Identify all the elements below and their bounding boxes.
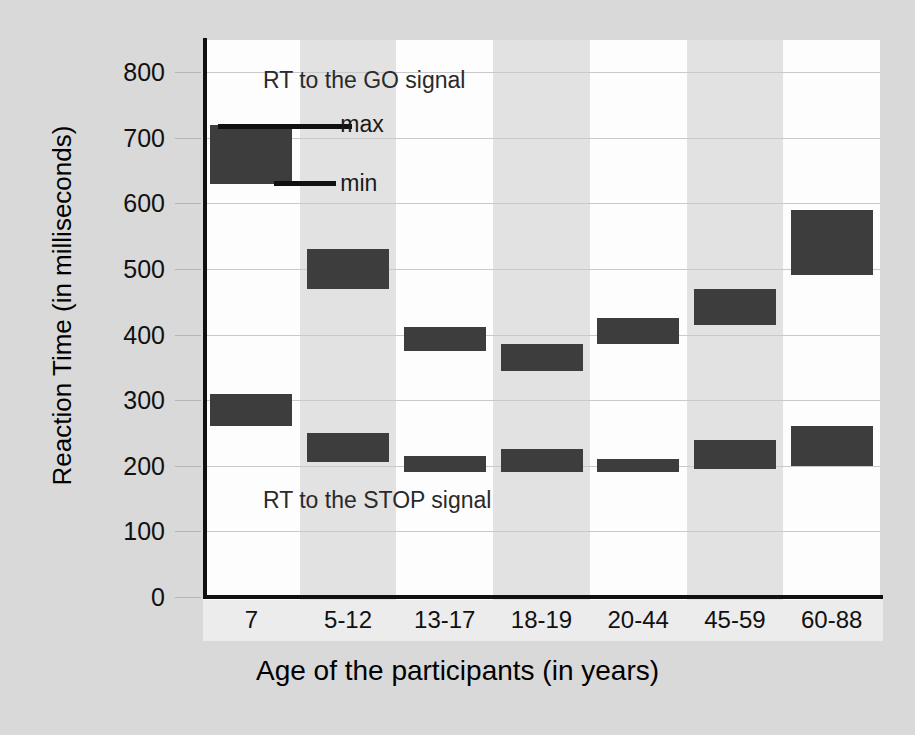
x-tick-label: 18-19: [493, 606, 590, 634]
x-tick-label: 45-59: [687, 606, 784, 634]
y-tick-label: 100: [75, 519, 165, 544]
y-tick-mark: [175, 138, 201, 139]
x-tick-label: 60-88: [783, 606, 880, 634]
plot-area: max min RT to the GO signal RT to the ST…: [203, 40, 880, 600]
chart-figure: Reaction Time (in milliseconds) max min …: [0, 0, 915, 735]
y-tick-mark: [175, 335, 201, 336]
y-tick-label: 400: [75, 323, 165, 348]
y-tick-mark: [175, 269, 201, 270]
y-axis-title: Reaction Time (in milliseconds): [47, 26, 78, 586]
gridline: [203, 138, 880, 139]
y-tick-mark: [175, 72, 201, 73]
range-bar: [694, 440, 776, 470]
legend-max-whisker: [218, 124, 352, 129]
legend-min-whisker: [274, 181, 336, 186]
range-bar: [501, 344, 583, 370]
range-bar: [210, 394, 292, 427]
gridline: [203, 400, 880, 401]
x-tick-label: 7: [203, 606, 300, 634]
annotation-go-signal: RT to the GO signal: [263, 67, 465, 94]
annotation-stop-signal: RT to the STOP signal: [263, 487, 491, 514]
category-band: [396, 40, 493, 600]
range-bar: [791, 426, 873, 465]
range-bar: [404, 327, 486, 351]
x-axis-title: Age of the participants (in years): [0, 655, 915, 687]
y-axis-line: [203, 38, 207, 598]
range-bar: [791, 210, 873, 276]
y-tick-mark: [175, 466, 201, 467]
y-tick-mark: [175, 597, 201, 598]
gridline: [203, 203, 880, 204]
y-tick-label: 800: [75, 60, 165, 85]
range-bar: [597, 459, 679, 472]
gridline: [203, 531, 880, 532]
y-tick-label: 500: [75, 257, 165, 282]
y-tick-label: 300: [75, 388, 165, 413]
range-bar: [404, 456, 486, 472]
x-tick-label: 5-12: [300, 606, 397, 634]
range-bar: [307, 249, 389, 288]
x-tick-label: 13-17: [396, 606, 493, 634]
gridline: [203, 269, 880, 270]
range-bar: [694, 289, 776, 325]
range-bar: [307, 433, 389, 463]
y-tick-label: 200: [75, 454, 165, 479]
y-tick-mark: [175, 531, 201, 532]
x-axis-line: [203, 595, 883, 599]
y-tick-label: 700: [75, 126, 165, 151]
legend-max-label: max: [340, 111, 383, 138]
range-bar: [501, 449, 583, 472]
y-tick-label: 600: [75, 191, 165, 216]
category-band: [783, 40, 880, 600]
legend-range-swatch: [210, 125, 292, 184]
category-band: [493, 40, 590, 600]
range-bar: [597, 318, 679, 344]
legend-min-label: min: [340, 170, 377, 197]
y-tick-label: 0: [75, 585, 165, 610]
gridline: [203, 335, 880, 336]
x-tick-label: 20-44: [590, 606, 687, 634]
y-tick-mark: [175, 203, 201, 204]
y-tick-mark: [175, 400, 201, 401]
